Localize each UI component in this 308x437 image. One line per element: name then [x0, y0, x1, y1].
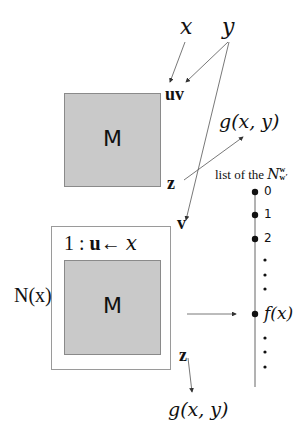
list-item-0: 0 [264, 184, 272, 198]
list-dot-1 [252, 212, 258, 218]
machine-box-bottom: M [64, 260, 161, 355]
box-title: 1 : u← x [64, 231, 137, 255]
list-dot-0 [252, 189, 258, 195]
machine-label-bottom: M [65, 293, 160, 318]
left-arrow-icon: ← [101, 232, 121, 254]
v-label: v [177, 213, 186, 234]
machine-label-top: M [65, 126, 160, 151]
nx-label: N(x) [14, 284, 52, 307]
box-title-u: u [90, 232, 101, 254]
z-label-bottom: z [179, 345, 187, 366]
arrow-y-to-v [186, 42, 228, 82]
nx-label-text: N(x) [14, 284, 52, 306]
list-dot-fx [252, 311, 258, 317]
uv-tape-label: uv [165, 84, 184, 105]
x-input-label: x [180, 14, 192, 39]
diagram-arrows [0, 0, 308, 437]
box-title-x: x [126, 231, 137, 255]
list-title-text: list of the [215, 167, 264, 182]
arrow-z-to-g-bottom [188, 358, 192, 392]
arrow-x-to-u [170, 42, 185, 82]
list-title: list of the Nww′ [215, 166, 288, 184]
nx-outer-box: 1 : u← x M [51, 226, 171, 370]
z-label-top: z [167, 173, 175, 194]
list-item-2: 2 [264, 231, 272, 245]
box-title-number: 1 : [64, 232, 85, 254]
g-output-label-bottom: g(x, y) [168, 398, 229, 420]
list-item-1: 1 [264, 207, 272, 221]
list-title-sub: w′ [280, 174, 288, 182]
list-item-fx: f(x) [264, 303, 293, 323]
g-output-label-top: g(x, y) [219, 110, 280, 132]
list-dot-2 [252, 236, 258, 242]
list-title-symbol: N [267, 166, 279, 182]
machine-box-top: M [64, 93, 161, 187]
y-input-label: y [222, 14, 234, 39]
